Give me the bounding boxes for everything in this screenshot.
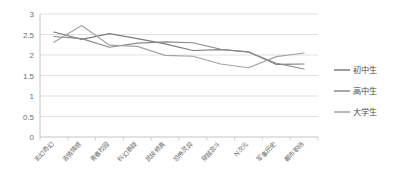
x-axis-tick-label: 青春校园 bbox=[88, 140, 111, 163]
y-axis-labels: 00.511.522.53 bbox=[23, 10, 35, 142]
x-axis-tick-label: 武侠修真 bbox=[143, 140, 166, 163]
chart-svg: 00.511.522.53 玄幻奇幻言情情感青春校园科幻悬疑武侠修真恐怖灵异穿越… bbox=[0, 0, 400, 188]
x-axis-labels: 玄幻奇幻言情情感青春校园科幻悬疑武侠修真恐怖灵异穿越宫斗N次元军事历史都市职场 bbox=[32, 139, 306, 163]
legend: 初中生高中生大学生 bbox=[334, 65, 377, 117]
legend-label-3: 大学生 bbox=[353, 107, 377, 117]
y-axis-tick-label: 3 bbox=[30, 10, 35, 19]
line-chart: 00.511.522.53 玄幻奇幻言情情感青春校园科幻悬疑武侠修真恐怖灵异穿越… bbox=[0, 0, 400, 188]
y-axis-tick-label: 1 bbox=[30, 92, 35, 101]
x-axis-tick-label: 都市职场 bbox=[282, 140, 305, 163]
series-lines-group bbox=[54, 25, 304, 68]
series-line-2 bbox=[54, 37, 304, 69]
x-axis-tick-label: N次元 bbox=[232, 139, 251, 158]
y-axis-tick-label: 1.5 bbox=[23, 72, 35, 81]
y-axis-tick-label: 0.5 bbox=[23, 113, 35, 122]
gridlines-group bbox=[40, 14, 318, 117]
tickmarks-group bbox=[40, 137, 318, 141]
x-axis-tick-label: 玄幻奇幻 bbox=[32, 140, 55, 163]
x-axis-tick-label: 恐怖灵异 bbox=[171, 140, 194, 163]
x-axis-tick-label: 军事历史 bbox=[254, 139, 278, 163]
series-line-3 bbox=[54, 25, 304, 67]
x-axis-tick-label: 科幻悬疑 bbox=[115, 139, 139, 163]
legend-label-2: 高中生 bbox=[353, 86, 377, 96]
x-axis-tick-label: 穿越宫斗 bbox=[199, 140, 222, 163]
y-axis-tick-label: 0 bbox=[30, 133, 35, 142]
y-axis-tick-label: 2.5 bbox=[23, 31, 35, 40]
x-axis-tick-label: 言情情感 bbox=[60, 139, 84, 163]
y-axis-tick-label: 2 bbox=[30, 51, 35, 60]
legend-label-1: 初中生 bbox=[353, 65, 377, 75]
